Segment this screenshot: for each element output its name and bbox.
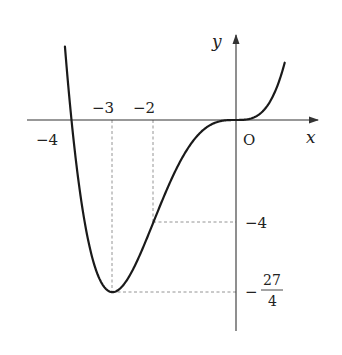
y-tick-minus4: −4: [245, 214, 267, 232]
fraction-denominator: 4: [268, 293, 277, 309]
fraction-sign: −: [245, 283, 258, 301]
fraction-numerator: 27: [263, 272, 281, 288]
y-tick-minus27over4: − 27 4: [245, 272, 283, 309]
x-tick-minus2: −2: [133, 99, 155, 117]
function-graph: y x O −4 −3 −2 −4 − 27 4: [0, 0, 342, 355]
guide-lines: [112, 120, 236, 292]
y-axis-label: y: [211, 31, 222, 51]
origin-label: O: [243, 131, 255, 149]
x-tick-minus3: −3: [92, 99, 114, 117]
x-tick-minus4: −4: [36, 131, 58, 149]
function-curve: [65, 47, 285, 293]
x-axis-label: x: [306, 127, 316, 147]
